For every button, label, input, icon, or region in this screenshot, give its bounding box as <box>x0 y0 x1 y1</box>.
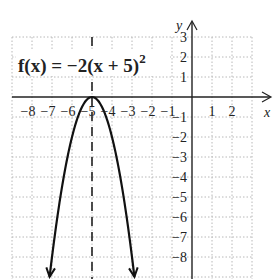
function-label: f(x) = −2(x + 5)2 <box>18 51 146 77</box>
y-tick-label: −8 <box>172 250 187 265</box>
y-axis-label: y <box>174 18 183 33</box>
y-tick-label: −4 <box>172 170 187 185</box>
x-tick-label: −7 <box>41 104 56 119</box>
x-tick-label: −2 <box>141 104 156 119</box>
y-tick-label: −7 <box>172 230 187 245</box>
x-tick-label: 2 <box>229 104 236 119</box>
y-tick-label: −1 <box>172 110 187 125</box>
y-tick-label: 1 <box>180 70 187 85</box>
x-tick-label: −8 <box>21 104 36 119</box>
y-tick-label: −5 <box>172 190 187 205</box>
x-tick-label: −6 <box>61 104 76 119</box>
x-tick-label: −3 <box>121 104 136 119</box>
y-tick-label: 2 <box>180 50 187 65</box>
y-tick-label: −3 <box>172 150 187 165</box>
parabola-chart: −8−7−6−5−4−3−2−112 321−1−2−3−4−5−6−7−8 x… <box>0 0 279 279</box>
x-axis-label: x <box>263 105 271 120</box>
x-tick-labels: −8−7−6−5−4−3−2−112 <box>21 104 236 119</box>
x-tick-label: −5 <box>81 104 96 119</box>
x-tick-label: −4 <box>101 104 116 119</box>
y-tick-label: −6 <box>172 210 187 225</box>
y-tick-label: −2 <box>172 130 187 145</box>
y-axis <box>187 21 197 279</box>
y-tick-labels: 321−1−2−3−4−5−6−7−8 <box>172 30 187 265</box>
x-tick-label: 1 <box>209 104 216 119</box>
